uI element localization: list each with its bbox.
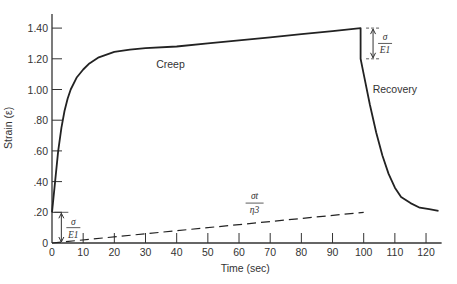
x-tick-label: 60 bbox=[233, 246, 245, 258]
x-tick-label: 100 bbox=[355, 246, 373, 258]
x-tick-label: 30 bbox=[140, 246, 152, 258]
y-tick-label: .80 bbox=[33, 114, 48, 126]
fraction-numerator: σt bbox=[251, 191, 259, 201]
y-tick-label: 1.40 bbox=[28, 22, 49, 34]
y-tick-label: .40 bbox=[33, 176, 48, 188]
fraction-denominator: E1 bbox=[67, 230, 79, 240]
fraction-numerator: σ bbox=[71, 217, 76, 227]
y-tick-label: .60 bbox=[33, 145, 48, 157]
creep-recovery-chart: 01020304050607080901001101200.20.40.60.8… bbox=[0, 0, 457, 284]
annotation-creep: Creep bbox=[156, 58, 185, 70]
fraction-denominator: η3 bbox=[250, 205, 260, 215]
x-tick-label: 120 bbox=[417, 246, 435, 258]
fraction-denominator: E1 bbox=[379, 45, 391, 55]
y-tick-label: 1.20 bbox=[28, 53, 49, 65]
x-tick-label: 110 bbox=[386, 246, 403, 258]
y-axis-title: Strain (ε) bbox=[2, 107, 14, 149]
y-tick-label: 1.00 bbox=[28, 84, 49, 96]
x-tick-label: 0 bbox=[49, 246, 55, 258]
x-tick-label: 50 bbox=[202, 246, 214, 258]
y-tick-label: 0 bbox=[42, 237, 48, 249]
x-tick-label: 90 bbox=[327, 246, 339, 258]
x-tick-label: 20 bbox=[108, 246, 120, 258]
fraction-numerator: σ bbox=[383, 32, 388, 42]
x-tick-label: 70 bbox=[264, 246, 276, 258]
x-axis-title: Time (sec) bbox=[221, 262, 270, 274]
annotation-recovery: Recovery bbox=[373, 83, 418, 95]
creep-recovery-curve bbox=[52, 28, 439, 212]
plot-area: 01020304050607080901001101200.20.40.60.8… bbox=[2, 14, 442, 274]
x-tick-label: 40 bbox=[171, 246, 183, 258]
y-tick-label: .20 bbox=[33, 206, 48, 218]
x-tick-label: 10 bbox=[77, 246, 89, 258]
x-tick-label: 80 bbox=[296, 246, 308, 258]
